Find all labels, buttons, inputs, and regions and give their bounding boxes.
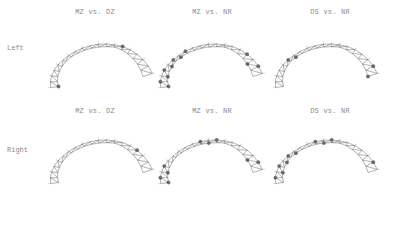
significant-landmark-marker	[167, 181, 170, 184]
mesh-edge	[362, 64, 365, 70]
mesh-tick	[377, 169, 379, 170]
significant-landmark-marker	[167, 85, 170, 88]
mesh-tick	[143, 154, 145, 156]
mesh-rung	[283, 65, 287, 67]
mesh-edge	[69, 147, 76, 151]
mesh-edge	[128, 54, 134, 59]
mesh-diagonal	[339, 143, 348, 144]
mesh-tick	[240, 144, 241, 146]
mesh-tick	[240, 48, 241, 50]
mesh-rung	[308, 144, 309, 147]
mesh-edge	[279, 65, 283, 70]
significant-landmark-marker	[179, 56, 182, 59]
mesh-edge	[141, 70, 143, 76]
mesh-diagonal	[77, 144, 83, 150]
mesh-edge	[366, 166, 368, 172]
mesh-diagonal	[176, 55, 179, 61]
mesh-edge	[121, 50, 127, 54]
mesh-diagonal	[114, 143, 123, 144]
mesh-edge	[71, 54, 77, 58]
significant-landmark-marker	[163, 164, 166, 167]
mesh-diagonal	[358, 59, 368, 60]
significant-landmark-marker	[184, 50, 187, 53]
mesh-diagonal	[224, 143, 233, 144]
mesh-rung	[193, 144, 194, 147]
mesh-diagonal	[291, 151, 294, 157]
mesh-tick	[340, 139, 341, 141]
significant-landmark-marker	[322, 141, 325, 144]
mesh-tick	[115, 139, 116, 141]
mesh-edge	[75, 48, 82, 51]
mesh-edge	[339, 47, 346, 50]
mesh-diagonal	[358, 155, 368, 156]
significant-landmark-marker	[246, 158, 249, 161]
mesh-rung	[121, 143, 122, 146]
mesh-tick	[368, 58, 370, 60]
mesh-tick	[152, 73, 154, 74]
mesh-tick	[368, 154, 370, 156]
significant-landmark-marker	[166, 171, 169, 174]
mesh-edge	[302, 51, 309, 54]
mesh-edge	[284, 67, 287, 72]
mesh-edge	[233, 47, 241, 50]
mesh-diagonal	[353, 54, 363, 55]
mesh-edge	[231, 50, 237, 54]
mesh-edge	[52, 166, 55, 172]
mesh-rung	[137, 60, 143, 64]
mesh-diagonal	[71, 51, 76, 57]
mesh-diagonal	[275, 82, 283, 87]
mesh-tick	[166, 160, 168, 161]
mesh-edge	[181, 150, 187, 154]
mesh-edge	[231, 146, 237, 150]
mesh-edge	[193, 46, 201, 48]
mesh-tick	[192, 46, 193, 48]
mesh-diagonal	[302, 48, 308, 54]
mesh-edge	[358, 59, 362, 65]
mesh-tick	[67, 54, 69, 56]
mesh-rung	[276, 87, 284, 88]
mesh-rung	[353, 146, 356, 150]
significant-landmark-marker	[274, 176, 277, 179]
mesh-edge	[300, 48, 307, 51]
mesh-tick	[307, 46, 308, 48]
mesh-tick	[262, 169, 264, 170]
mesh-rung	[362, 156, 368, 160]
mesh-tick	[177, 150, 179, 152]
mesh-diagonal	[238, 150, 248, 151]
significant-landmark-marker	[287, 154, 290, 157]
mesh-diagonal	[66, 151, 69, 157]
mesh-diagonal	[283, 65, 284, 72]
mesh-edge	[251, 70, 253, 76]
mesh-edge	[194, 48, 201, 50]
mesh-edge	[54, 161, 58, 166]
mesh-rung	[143, 74, 152, 77]
mesh-edge	[238, 150, 244, 155]
mesh-tick	[130, 48, 131, 50]
shape-mesh-panel-6	[273, 138, 379, 184]
significant-landmark-marker	[372, 65, 375, 68]
significant-landmark-marker	[215, 138, 218, 141]
mesh-rung	[368, 170, 377, 173]
mesh-edge	[225, 141, 233, 143]
mesh-edge	[71, 150, 77, 154]
mesh-edge	[224, 143, 231, 146]
mesh-rung	[69, 151, 71, 153]
mesh-edge	[63, 151, 69, 156]
mesh-edge	[283, 82, 284, 87]
mesh-edge	[300, 144, 307, 147]
mesh-edge	[133, 155, 137, 161]
mesh-edge	[348, 47, 356, 50]
mesh-edge	[217, 44, 225, 45]
mesh-edge	[59, 67, 62, 72]
mesh-edge	[58, 178, 59, 183]
mesh-edge	[83, 142, 91, 144]
mesh-diagonal	[291, 55, 294, 61]
mesh-rung	[179, 151, 181, 153]
mesh-rung	[185, 147, 187, 149]
mesh-rung	[315, 46, 316, 49]
mesh-edge	[77, 147, 84, 150]
mesh-diagonal	[133, 155, 143, 156]
mesh-edge	[233, 143, 241, 146]
mesh-rung	[231, 143, 232, 146]
mesh-edge	[137, 160, 140, 166]
